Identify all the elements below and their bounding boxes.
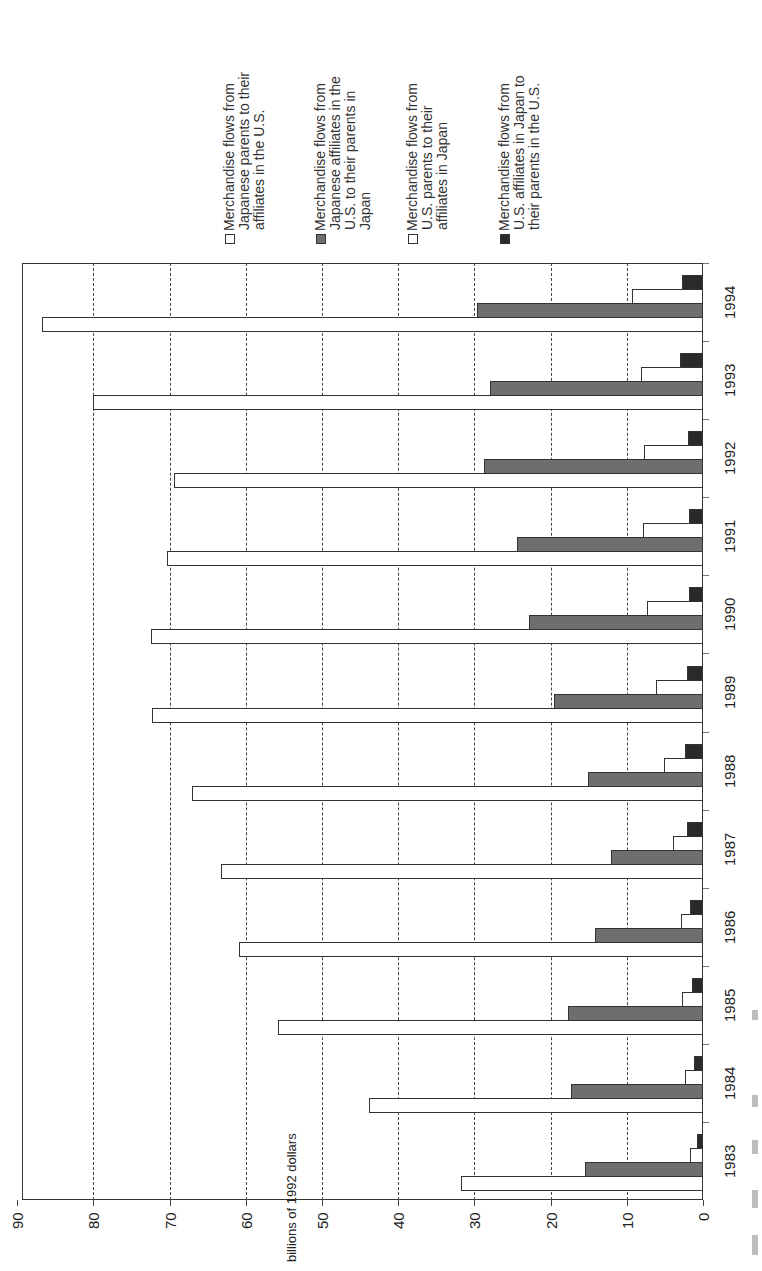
bar-1987-series-1: [221, 864, 703, 879]
legend-text: their parents in the U.S.: [527, 75, 542, 244]
bar-1989-series-2: [554, 694, 703, 709]
value-tick: [170, 1200, 171, 1206]
legend-text: Merchandise flows from: [497, 75, 512, 244]
value-tick-label: 40: [390, 1212, 407, 1229]
category-tick: [703, 497, 709, 498]
bar-1985-series-3: [682, 992, 703, 1007]
bar-1993-series-2: [490, 381, 703, 396]
bar-1986-series-3: [681, 914, 703, 929]
bar-1983-series-4: [697, 1134, 703, 1149]
bar-1991-series-3: [643, 523, 703, 538]
value-tick: [398, 1200, 399, 1206]
value-tick-label: 0: [695, 1212, 712, 1220]
bar-1988-series-3: [664, 758, 703, 773]
y-axis-title: billions of 1992 dollars: [284, 1133, 299, 1262]
category-label: 1986: [721, 910, 738, 943]
bar-1984-series-1: [369, 1098, 703, 1113]
value-tick: [703, 1200, 704, 1206]
bar-1991-series-1: [167, 551, 703, 566]
category-label: 1994: [721, 286, 738, 319]
value-tick: [17, 1200, 18, 1206]
legend-text: Merchandise flows from: [313, 76, 328, 244]
category-label: 1990: [721, 598, 738, 631]
value-tick-label: 10: [619, 1212, 636, 1229]
bar-1987-series-3: [673, 836, 703, 851]
legend-swatch-icon: [500, 234, 510, 244]
category-tick: [703, 263, 709, 264]
category-label: 1993: [721, 364, 738, 397]
value-tick: [322, 1200, 323, 1206]
value-tick: [93, 1200, 94, 1206]
value-tick: [246, 1200, 247, 1206]
bar-1990-series-4: [689, 587, 703, 602]
legend-swatch-icon: [408, 234, 418, 244]
bar-1989-series-1: [152, 708, 703, 723]
value-tick-label: 90: [9, 1212, 26, 1229]
category-tick: [703, 653, 709, 654]
bar-1994-series-1: [42, 317, 703, 332]
category-tick: [703, 575, 709, 576]
legend-text: Merchandise flows from: [222, 72, 237, 244]
bar-1988-series-1: [192, 786, 703, 801]
bar-1985-series-4: [692, 978, 703, 993]
bar-1994-series-4: [682, 275, 703, 290]
legend-entry: Merchandise flows fromU.S. affiliates in…: [497, 75, 542, 244]
legend-swatch-icon: [225, 234, 235, 244]
legend-text: U.S. to their parents in: [343, 76, 358, 244]
bar-1991-series-2: [517, 537, 703, 552]
category-tick: [703, 341, 709, 342]
category-tick: [703, 1122, 709, 1123]
value-tick-label: 80: [85, 1212, 102, 1229]
bar-1994-series-3: [632, 289, 703, 304]
legend-text: affiliates in the U.S.: [252, 72, 267, 244]
category-label: 1983: [721, 1145, 738, 1178]
legend-entry: Merchandise flows fromU.S. parents to th…: [405, 83, 450, 244]
bar-1994-series-2: [477, 303, 703, 318]
bar-1992-series-1: [174, 473, 703, 488]
bar-1989-series-3: [656, 680, 703, 695]
value-tick-label: 30: [466, 1212, 483, 1229]
category-label: 1989: [721, 676, 738, 709]
category-label: 1991: [721, 520, 738, 553]
legend-entry: Merchandise flows fromJapanese parents t…: [222, 72, 267, 244]
value-tick-label: 70: [162, 1212, 179, 1229]
bar-1989-series-4: [687, 666, 703, 681]
bar-1986-series-1: [239, 942, 703, 957]
bar-1984-series-2: [571, 1084, 703, 1099]
bar-1983-series-1: [461, 1176, 703, 1191]
bar-1993-series-3: [641, 367, 703, 382]
category-label: 1984: [721, 1067, 738, 1100]
bar-1985-series-2: [568, 1006, 703, 1021]
bar-1983-series-3: [690, 1148, 703, 1163]
value-tick-label: 20: [543, 1212, 560, 1229]
legend-text: Japan: [358, 76, 373, 244]
category-label: 1992: [721, 442, 738, 475]
bar-1990-series-3: [647, 601, 703, 616]
category-tick: [703, 1044, 709, 1045]
bar-1992-series-2: [484, 459, 703, 474]
value-tick: [474, 1200, 475, 1206]
legend-text: affiliates in Japan: [435, 83, 450, 244]
value-tick-label: 60: [238, 1212, 255, 1229]
category-label: 1988: [721, 754, 738, 787]
legend-text: Japanese parents to their: [237, 72, 252, 244]
bar-1988-series-2: [588, 772, 703, 787]
category-tick: [703, 419, 709, 420]
value-tick: [627, 1200, 628, 1206]
bar-1992-series-3: [644, 445, 703, 460]
bar-1985-series-1: [278, 1020, 703, 1035]
category-tick: [703, 966, 709, 967]
value-tick-label: 50: [314, 1212, 331, 1229]
bar-1983-series-2: [585, 1162, 703, 1177]
bar-1984-series-4: [694, 1056, 703, 1071]
legend-entry: Merchandise flows fromJapanese affiliate…: [313, 76, 373, 244]
legend-text: Japanese affiliates in the: [328, 76, 343, 244]
category-label: 1985: [721, 988, 738, 1021]
bar-1992-series-4: [688, 431, 703, 446]
bar-1993-series-4: [680, 353, 703, 368]
bar-1988-series-4: [685, 744, 703, 759]
legend-swatch-icon: [316, 234, 326, 244]
value-tick: [551, 1200, 552, 1206]
category-tick: [703, 732, 709, 733]
bar-1991-series-4: [689, 509, 703, 524]
